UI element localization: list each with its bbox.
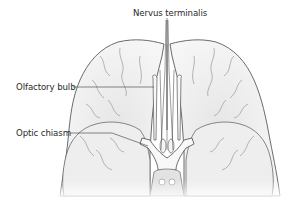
label-olfactory-bulb: Olfactory bulb [16, 82, 76, 92]
brain-illustration [0, 0, 287, 201]
label-nervus-terminalis: Nervus terminalis [133, 8, 207, 18]
brain-diagram: Nervus terminalis Olfactory bulb Optic c… [0, 0, 287, 201]
label-optic-chiasm: Optic chiasm [16, 128, 71, 138]
